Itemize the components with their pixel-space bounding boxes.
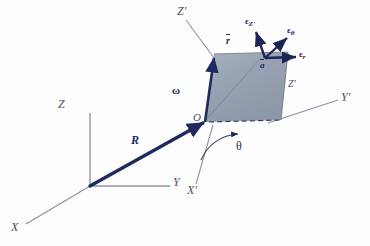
vector-label-R: R <box>131 134 139 146</box>
axis-label-X: X <box>11 221 18 233</box>
epsilon-sub-2: θ <box>291 29 295 37</box>
point-label-a-text: a <box>260 60 265 70</box>
vector-R <box>90 123 203 186</box>
plane-label-Z-prime: Z' <box>288 79 296 89</box>
axis-label-Z: Z <box>58 98 65 110</box>
axis-X <box>26 186 90 224</box>
axis-X-prime <box>196 125 213 184</box>
vector-epsilon-r <box>265 57 296 58</box>
vector-label-r-text: r <box>226 35 230 46</box>
point-label-a-bar: a <box>260 61 265 70</box>
vector-label-r-bar: r <box>226 36 230 46</box>
vector-label-omega: ω <box>172 85 180 96</box>
a-overbar <box>260 59 264 60</box>
point-label-O: O <box>193 112 201 123</box>
diagram-svg <box>0 0 370 246</box>
axis-Z-prime <box>186 20 214 58</box>
epsilon-sub-3: r <box>303 53 306 61</box>
axis-label-Y-prime: Y' <box>341 91 350 103</box>
inertial-axes <box>26 113 170 224</box>
axis-label-Y: Y <box>173 176 180 188</box>
unit-vector-label-epsilon-theta: εθ <box>287 26 295 37</box>
r-overbar <box>226 34 229 35</box>
axis-label-Z-prime: Z' <box>177 5 186 17</box>
angle-label-theta: θ <box>236 140 242 152</box>
epsilon-sub-1: Z' <box>249 20 255 28</box>
rotating-plane <box>205 52 288 122</box>
axis-label-X-prime: X' <box>187 184 197 196</box>
plane-surface <box>205 52 288 122</box>
unit-vector-label-epsilon-r: εr <box>299 50 306 61</box>
figure-canvas: Z Y X Z' Y' X' O R ω r a εZ' εθ εr Z' θ <box>0 0 370 246</box>
unit-vector-label-epsilon-Z-prime: εZ' <box>245 17 255 28</box>
